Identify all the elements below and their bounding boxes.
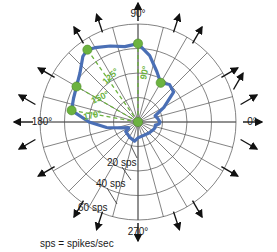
spoke-30 — [138, 73, 223, 122]
direction-arrow-255 — [97, 212, 103, 230]
direction-arrow-45 — [234, 73, 244, 89]
figure-caption: sps = spikes/sec — [40, 238, 114, 249]
ring-label-20: 20 sps — [107, 157, 136, 168]
direction-arrow-195 — [19, 140, 35, 150]
marker-center[interactable] — [133, 117, 142, 126]
polar-tuning-chart: 90° 125° 150° 170° 20 sps 40 sps 60 sps … — [0, 0, 277, 252]
axis-label-180: 180° — [32, 116, 53, 127]
spoke-195 — [43, 122, 138, 147]
direction-arrow-210 — [38, 167, 54, 177]
marker-170[interactable] — [67, 106, 76, 115]
marker-90[interactable] — [133, 39, 142, 48]
marker-60[interactable] — [156, 78, 165, 87]
direction-arrow-120 — [74, 27, 84, 43]
direction-arrow-75 — [174, 14, 180, 32]
axis-label-90: 90° — [130, 8, 145, 19]
marker-150[interactable] — [72, 82, 81, 91]
marker-125[interactable] — [83, 45, 92, 54]
reference-label-150: 150° — [90, 89, 111, 106]
spoke-345 — [138, 122, 233, 147]
direction-arrow-345 — [241, 140, 257, 150]
spoke-330 — [138, 122, 223, 171]
spoke-15 — [138, 97, 233, 122]
reference-label-170: 170° — [82, 108, 103, 122]
direction-arrow-285 — [174, 212, 180, 230]
direction-arrow-30 — [241, 95, 257, 105]
ring-label-60: 60 sps — [78, 202, 107, 213]
direction-arrow-300 — [193, 201, 203, 217]
direction-arrow-30b — [221, 68, 237, 78]
direction-arrow-150 — [38, 68, 54, 78]
direction-arrow-165 — [19, 95, 35, 105]
reference-label-90: 90° — [138, 65, 151, 81]
ring-label-40: 40 sps — [96, 178, 125, 189]
axis-label-270: 270° — [128, 226, 149, 237]
direction-arrow-60 — [193, 27, 203, 43]
direction-arrow-105 — [97, 14, 103, 32]
reference-label-125: 125° — [100, 66, 121, 86]
axis-label-0: 0° — [247, 116, 257, 127]
direction-arrow-330 — [221, 167, 237, 177]
polar-plot-svg: 90° 125° 150° 170° 20 sps 40 sps 60 sps … — [0, 0, 277, 252]
